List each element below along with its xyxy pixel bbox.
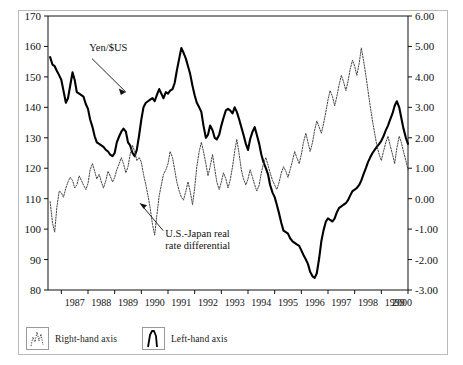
legend-label-right-hand-axis: Right-hand axis: [55, 334, 117, 344]
left-axis-tick-label: 170: [25, 10, 42, 22]
x-axis-tick-label: 1991: [171, 297, 191, 308]
x-axis-tick-label: 1989: [118, 297, 138, 308]
legend-entry-right-hand-axis: Right-hand axis: [26, 327, 117, 350]
annotation-differential-label-2: rate differential: [165, 240, 230, 251]
right-axis-tick-label: 2.00: [415, 132, 435, 144]
x-axis-tick-label: 1988: [91, 297, 111, 308]
annotation-arrow-yen: [92, 59, 126, 92]
right-axis-tick-label: -2.00: [415, 254, 438, 266]
left-axis-tick-label: 100: [25, 223, 42, 235]
x-axis-tick-label: 2000: [392, 297, 412, 308]
x-axis-tick-label: 1997: [331, 297, 351, 308]
legend-swatch-dotted: [26, 327, 49, 350]
annotation-arrowhead-yen: [119, 89, 126, 96]
annotation-arrowhead-differential: [140, 203, 147, 209]
left-axis-tick-label: 90: [30, 254, 42, 266]
x-axis-tick-label: 1990: [145, 297, 165, 308]
x-axis-tick-label: 1994: [251, 297, 271, 308]
x-axis-tick-label: 1993: [225, 297, 245, 308]
left-axis-tick-label: 80: [30, 284, 42, 296]
left-axis-tick-label: 110: [25, 193, 42, 205]
left-axis-tick-label: 130: [25, 132, 42, 144]
right-axis-tick-label: -3.00: [415, 284, 438, 296]
legend-entry-left-hand-axis: Left-hand axis: [142, 327, 228, 350]
legend-swatch-solid: [142, 327, 165, 350]
x-axis-tick-label: 1987: [65, 297, 85, 308]
right-axis-tick-label: -1.00: [415, 223, 438, 235]
annotation-differential-label: U.S.-Japan real: [165, 228, 230, 239]
figure: 8090100110120130140150160170-3.00-2.00-1…: [0, 0, 463, 365]
legend-label-left-hand-axis: Left-hand axis: [171, 334, 228, 344]
left-axis-tick-label: 140: [25, 101, 42, 113]
chart-canvas: 8090100110120130140150160170-3.00-2.00-1…: [0, 0, 463, 365]
left-axis-tick-label: 120: [25, 162, 42, 174]
chart-legend: Right-hand axis Left-hand axis: [26, 327, 245, 350]
right-axis-tick-label: 5.00: [415, 40, 435, 52]
left-axis-tick-label: 150: [25, 71, 42, 83]
x-axis-tick-label: 1995: [278, 297, 298, 308]
annotation-yen-label: Yen/$US: [89, 42, 127, 53]
right-axis-tick-label: 1.00: [415, 162, 435, 174]
left-axis-tick-label: 160: [25, 40, 42, 52]
series-line-differential: [50, 48, 408, 235]
right-axis-tick-label: 3.00: [415, 101, 435, 113]
x-axis-tick-label: 1996: [305, 297, 325, 308]
x-axis-tick-label: 1998: [358, 297, 378, 308]
x-axis-tick-label: 1992: [198, 297, 218, 308]
right-axis-tick-label: 4.00: [415, 71, 435, 83]
right-axis-tick-label: 0.00: [415, 193, 435, 205]
right-axis-tick-label: 6.00: [415, 10, 435, 22]
